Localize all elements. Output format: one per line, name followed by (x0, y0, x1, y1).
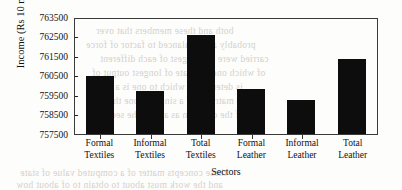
x-axis-category-labels: Formal Textiles Informal Textiles Total … (74, 138, 378, 161)
x-category-line: Total (327, 138, 378, 150)
x-category-label: Total Textiles (175, 138, 226, 161)
y-axis-tick-labels: 763500 762500 761500 760500 759500 75850… (16, 0, 68, 190)
x-category-label: Informal Textiles (125, 138, 176, 161)
x-category-line: Textiles (175, 150, 226, 162)
bar-slot (75, 19, 125, 134)
bar-formal-textiles (86, 76, 114, 134)
bar-formal-leather (237, 89, 265, 134)
bar-chart-figure: both and these members that over probabl… (0, 0, 402, 190)
plot-area (75, 19, 377, 134)
bar-total-leather (338, 59, 366, 134)
bar-total-textiles (187, 35, 215, 134)
plot-frame (74, 18, 378, 135)
x-category-line: Leather (226, 150, 277, 162)
y-tick-label: 757500 (18, 131, 68, 141)
x-category-label: Informal Leather (277, 138, 328, 161)
x-category-line: Leather (327, 150, 378, 162)
y-tick-label: 760500 (18, 72, 68, 82)
bar-informal-textiles (136, 91, 164, 134)
x-category-line: Textiles (125, 150, 176, 162)
x-category-line: Formal (74, 138, 125, 150)
y-tick-label: 763500 (18, 14, 68, 24)
x-category-line: Formal (226, 138, 277, 150)
bar-informal-leather (287, 100, 315, 134)
x-category-line: Informal (125, 138, 176, 150)
x-category-line: Textiles (74, 150, 125, 162)
x-category-line: Leather (277, 150, 328, 162)
x-category-line: Informal (277, 138, 328, 150)
bar-slot (125, 19, 175, 134)
bar-slot (327, 19, 377, 134)
y-tick-label: 762500 (18, 33, 68, 43)
bar-slot (176, 19, 226, 134)
bar-slot (276, 19, 326, 134)
x-axis-title: Sectors (74, 166, 378, 177)
x-category-line: Total (175, 138, 226, 150)
y-tick-label: 759500 (18, 92, 68, 102)
x-category-label: Formal Leather (226, 138, 277, 161)
x-category-label: Formal Textiles (74, 138, 125, 161)
bar-slot (226, 19, 276, 134)
x-category-label: Total Leather (327, 138, 378, 161)
y-tick-label: 758500 (18, 111, 68, 121)
y-tick-label: 761500 (18, 53, 68, 63)
